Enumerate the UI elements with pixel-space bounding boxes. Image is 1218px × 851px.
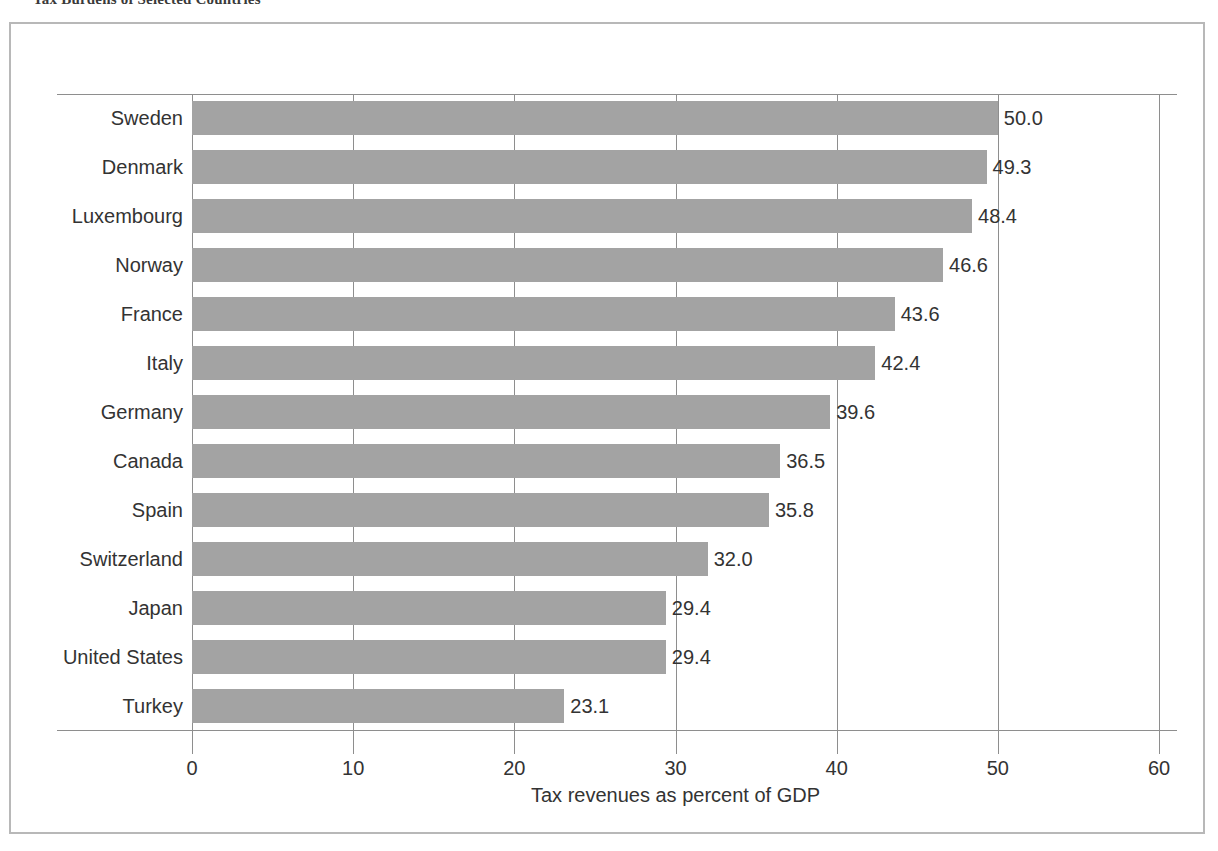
category-label: France: [121, 303, 183, 326]
bar[interactable]: [192, 346, 875, 380]
category-label: Denmark: [102, 156, 183, 179]
category-label: Spain: [132, 498, 183, 521]
bar[interactable]: [192, 248, 943, 282]
bar-value-label: 29.4: [666, 596, 711, 619]
bar-row: Italy42.4: [192, 346, 1159, 380]
category-label: Japan: [129, 596, 184, 619]
tick-30: [676, 731, 677, 754]
category-label: Canada: [113, 449, 183, 472]
bar-row: Denmark49.3: [192, 150, 1159, 184]
bar-row: France43.6: [192, 297, 1159, 331]
tick-20: [514, 731, 515, 754]
figure-caption: Tax Burdens of Selected Countries: [33, 0, 261, 5]
bar-row: Switzerland32.0: [192, 542, 1159, 576]
category-label: Sweden: [111, 107, 183, 130]
bar[interactable]: [192, 150, 987, 184]
bar[interactable]: [192, 101, 998, 135]
bar-value-label: 43.6: [895, 303, 940, 326]
category-label: Italy: [146, 352, 183, 375]
bar-value-label: 32.0: [708, 547, 753, 570]
bar-row: Spain35.8: [192, 493, 1159, 527]
bar-value-label: 46.6: [943, 254, 988, 277]
x-tick-label: 30: [664, 757, 686, 780]
chart-plot-area: 0102030405060 Sweden50.0Denmark49.3Luxem…: [192, 94, 1159, 730]
x-tick-label: 0: [186, 757, 197, 780]
bar-value-label: 42.4: [875, 352, 920, 375]
bar[interactable]: [192, 542, 708, 576]
bar-row: United States29.4: [192, 640, 1159, 674]
bar-value-label: 48.4: [972, 205, 1017, 228]
bar-value-label: 39.6: [830, 401, 875, 424]
x-tick-label: 50: [987, 757, 1009, 780]
bar-row: Japan29.4: [192, 591, 1159, 625]
bar[interactable]: [192, 395, 830, 429]
bar-value-label: 36.5: [780, 449, 825, 472]
category-label: Germany: [101, 401, 183, 424]
category-label: Luxembourg: [72, 205, 183, 228]
tick-40: [837, 731, 838, 754]
x-tick-label: 60: [1148, 757, 1170, 780]
category-label: United States: [63, 645, 183, 668]
x-tick-label: 10: [342, 757, 364, 780]
bar-series: Sweden50.0Denmark49.3Luxembourg48.4Norwa…: [192, 94, 1159, 730]
tick-60: [1159, 731, 1160, 754]
bar[interactable]: [192, 199, 972, 233]
bar-row: Luxembourg48.4: [192, 199, 1159, 233]
category-label: Norway: [115, 254, 183, 277]
bar-value-label: 49.3: [987, 156, 1032, 179]
x-axis-title: Tax revenues as percent of GDP: [192, 784, 1159, 807]
tick-0: [192, 731, 193, 754]
bar[interactable]: [192, 493, 769, 527]
bar-row: Norway46.6: [192, 248, 1159, 282]
figure-frame: 0102030405060 Sweden50.0Denmark49.3Luxem…: [9, 22, 1205, 834]
bar-value-label: 50.0: [998, 107, 1043, 130]
bar-row: Canada36.5: [192, 444, 1159, 478]
bar[interactable]: [192, 591, 666, 625]
bar[interactable]: [192, 444, 780, 478]
category-label: Turkey: [123, 694, 183, 717]
bar-value-label: 23.1: [564, 694, 609, 717]
x-tick-label: 40: [826, 757, 848, 780]
category-label: Switzerland: [80, 547, 183, 570]
x-axis-baseline: [57, 730, 1177, 731]
bar-row: Germany39.6: [192, 395, 1159, 429]
tick-10: [353, 731, 354, 754]
bar[interactable]: [192, 297, 895, 331]
tick-50: [998, 731, 999, 754]
bar-row: Turkey23.1: [192, 689, 1159, 723]
bar-row: Sweden50.0: [192, 101, 1159, 135]
bar[interactable]: [192, 689, 564, 723]
bar-value-label: 29.4: [666, 645, 711, 668]
bar[interactable]: [192, 640, 666, 674]
gridline-60: [1159, 94, 1160, 730]
x-tick-label: 20: [503, 757, 525, 780]
bar-value-label: 35.8: [769, 498, 814, 521]
